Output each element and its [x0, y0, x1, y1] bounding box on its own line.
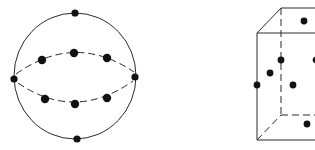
sphere-point-lower-center	[71, 100, 79, 108]
sphere-point-north-pole	[71, 9, 78, 16]
cube-top-left-edge	[257, 8, 281, 33]
sphere-point-left	[10, 75, 17, 82]
sphere-figure	[10, 9, 138, 142]
sphere-point-lower-right	[103, 94, 111, 102]
sphere-point-lower-left	[41, 95, 49, 103]
cube-point-back-left-edge	[278, 57, 285, 64]
cube-point-left-face	[267, 70, 274, 77]
sphere-point-south-pole	[73, 135, 80, 142]
cube-point-front-left-edge	[254, 82, 261, 89]
sphere-point-upper-left	[38, 56, 46, 64]
cube-point-bottom-face	[304, 121, 311, 128]
cube-point-right-cropped	[313, 57, 315, 64]
cube-point-center	[290, 82, 297, 89]
diagram-canvas	[0, 0, 315, 150]
sphere-point-upper-right	[103, 54, 111, 62]
cube-figure	[254, 8, 315, 140]
sphere-outline	[14, 13, 136, 139]
cube-point-top-face	[301, 18, 308, 25]
sphere-point-upper-center	[70, 49, 78, 57]
sphere-point-right	[131, 73, 138, 80]
lower-latitude-arc	[18, 81, 133, 102]
cube-hidden-bottom-left-edge	[257, 115, 281, 140]
